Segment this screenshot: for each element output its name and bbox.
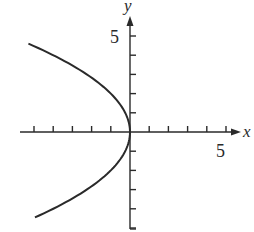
y-axis-arrow-icon [127,16,134,26]
y-axis-label: y [122,0,132,15]
axes [20,16,241,229]
parabola-chart: y x 5 5 [0,0,254,232]
x-tick-label-5: 5 [216,141,225,161]
x-axis-arrow-icon [231,129,241,136]
parabola-curve [28,44,130,218]
y-tick-label-5: 5 [110,27,119,47]
x-axis-label: x [242,122,251,141]
